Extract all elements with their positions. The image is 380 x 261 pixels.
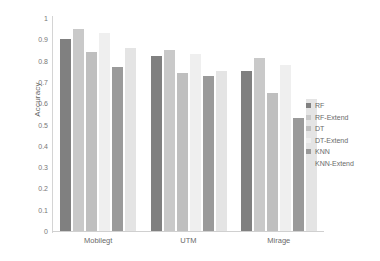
bar — [99, 33, 110, 231]
bar-group-mobilegt — [59, 18, 137, 231]
legend-item-dt[interactable]: DT — [306, 123, 378, 135]
bar-chart: Accuracy 10.90.80.70.60.50.40.30.20.10 M… — [0, 0, 380, 261]
y-axis-tick: 0.5 — [22, 121, 48, 128]
legend-swatch-icon — [306, 103, 311, 108]
bar — [151, 56, 162, 231]
x-axis-line — [52, 231, 324, 232]
legend-item-rf[interactable]: RF — [306, 100, 378, 112]
x-axis-tick: UTM — [143, 236, 233, 245]
legend-item-knn-extend[interactable]: KNN-Extend — [306, 158, 378, 170]
bar — [86, 52, 97, 231]
y-axis-tick-labels: 10.90.80.70.60.50.40.30.20.10 — [22, 18, 48, 231]
legend-swatch-icon — [306, 138, 311, 143]
bar — [241, 71, 252, 231]
legend-label: KNN — [315, 148, 330, 155]
y-axis-tick: 0.3 — [22, 164, 48, 171]
legend-swatch-icon — [306, 161, 311, 166]
bar — [254, 58, 265, 231]
bar — [73, 29, 84, 231]
bar — [60, 39, 71, 231]
y-axis-tick: 0.6 — [22, 100, 48, 107]
y-axis-tick: 0.8 — [22, 57, 48, 64]
legend-label: RF-Extend — [315, 114, 348, 121]
legend-label: DT-Extend — [315, 137, 348, 144]
legend-label: KNN-Extend — [315, 160, 354, 167]
bar — [112, 67, 123, 231]
legend-item-rf-extend[interactable]: RF-Extend — [306, 112, 378, 124]
y-axis-tick: 0.2 — [22, 185, 48, 192]
bar — [125, 48, 136, 231]
legend-label: RF — [315, 102, 324, 109]
bar — [190, 54, 201, 231]
y-axis-tick: 0.4 — [22, 142, 48, 149]
bar — [267, 93, 278, 231]
bar — [280, 65, 291, 231]
legend-item-dt-extend[interactable]: DT-Extend — [306, 135, 378, 147]
y-axis-tick: 1 — [22, 15, 48, 22]
bar — [216, 71, 227, 231]
bar — [164, 50, 175, 231]
bar-group-utm — [150, 18, 228, 231]
plot-area — [53, 18, 324, 231]
legend-swatch-icon — [306, 126, 311, 131]
bar — [203, 76, 214, 231]
legend-item-knn[interactable]: KNN — [306, 146, 378, 158]
legend-swatch-icon — [306, 149, 311, 154]
legend-label: DT — [315, 125, 324, 132]
bar — [177, 73, 188, 231]
legend-swatch-icon — [306, 115, 311, 120]
y-axis-tick: 0 — [22, 228, 48, 235]
y-axis-tick: 0.1 — [22, 206, 48, 213]
y-axis-tick: 0.7 — [22, 78, 48, 85]
x-axis-tick: Mirage — [234, 236, 324, 245]
chart-legend: RFRF-ExtendDTDT-ExtendKNNKNN-Extend — [306, 100, 378, 169]
y-axis-tick: 0.9 — [22, 36, 48, 43]
bar — [293, 118, 304, 231]
x-axis-tick: Mobilegt — [53, 236, 143, 245]
